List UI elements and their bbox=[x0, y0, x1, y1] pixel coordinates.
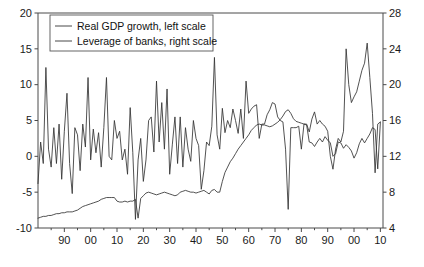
right-tick-label: 4 bbox=[389, 222, 395, 234]
x-tick-label: 00 bbox=[85, 234, 97, 246]
chart-canvas: 20151050-5-10 282420161284 9000102030405… bbox=[0, 0, 424, 267]
left-tick-label: 20 bbox=[20, 7, 32, 19]
chart-figure: 20151050-5-10 282420161284 9000102030405… bbox=[0, 0, 424, 267]
left-tick-label: 5 bbox=[26, 114, 32, 126]
x-tick-label: 10 bbox=[374, 234, 386, 246]
right-tick-label: 20 bbox=[389, 78, 401, 90]
left-tick-label: 15 bbox=[20, 43, 32, 55]
right-axis-ticks: 282420161284 bbox=[383, 7, 401, 234]
x-tick-label: 60 bbox=[243, 234, 255, 246]
right-tick-label: 28 bbox=[389, 7, 401, 19]
left-tick-label: 0 bbox=[26, 150, 32, 162]
x-tick-label: 70 bbox=[269, 234, 281, 246]
chart-legend: Real GDP growth, left scaleLeverage of b… bbox=[50, 15, 217, 51]
series-line-1 bbox=[38, 43, 380, 219]
x-tick-label: 30 bbox=[164, 234, 176, 246]
x-axis-ticks: 90001020304050607080900010 bbox=[51, 228, 386, 246]
data-series-group bbox=[38, 43, 380, 219]
left-axis-ticks: 20151050-5-10 bbox=[16, 7, 38, 234]
x-tick-label: 00 bbox=[348, 234, 360, 246]
right-tick-label: 16 bbox=[389, 114, 401, 126]
left-tick-label: -5 bbox=[22, 186, 32, 198]
x-tick-label: 20 bbox=[137, 234, 149, 246]
right-tick-label: 8 bbox=[389, 186, 395, 198]
right-tick-label: 24 bbox=[389, 43, 401, 55]
x-tick-label: 80 bbox=[295, 234, 307, 246]
right-tick-label: 12 bbox=[389, 150, 401, 162]
left-tick-label: -10 bbox=[16, 222, 32, 234]
x-tick-label: 90 bbox=[58, 234, 70, 246]
left-tick-label: 10 bbox=[20, 78, 32, 90]
x-tick-label: 90 bbox=[322, 234, 334, 246]
x-tick-label: 40 bbox=[190, 234, 202, 246]
x-tick-label: 50 bbox=[216, 234, 228, 246]
x-tick-label: 10 bbox=[111, 234, 123, 246]
legend-item-label-2: Leverage of banks, right scale bbox=[77, 35, 217, 47]
legend-item-label-1: Real GDP growth, left scale bbox=[77, 20, 206, 32]
